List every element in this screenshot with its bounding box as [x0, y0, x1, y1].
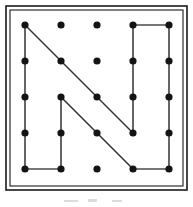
peg-dot — [93, 165, 100, 172]
peg-dot — [93, 57, 100, 64]
peg-dot — [57, 21, 64, 28]
peg-dot — [21, 93, 28, 100]
peg-dot — [165, 57, 172, 64]
caption-smudge — [112, 200, 122, 202]
peg-dot — [129, 165, 136, 172]
caption-smudge — [88, 199, 97, 202]
peg-dot — [57, 165, 64, 172]
peg-dot — [93, 93, 100, 100]
peg-dot — [57, 129, 64, 136]
peg-dot — [57, 93, 64, 100]
caption-smudge-group — [64, 199, 122, 202]
peg-dot — [129, 129, 136, 136]
peg-dot — [93, 21, 100, 28]
caption-smudge — [64, 200, 78, 202]
geoboard-figure — [0, 0, 193, 207]
peg-dot — [57, 57, 64, 64]
peg-dot — [21, 129, 28, 136]
peg-dot — [21, 165, 28, 172]
geoboard-canvas — [0, 0, 193, 207]
peg-dot — [129, 21, 136, 28]
peg-dot — [165, 165, 172, 172]
peg-dot — [129, 93, 136, 100]
peg-dot — [21, 21, 28, 28]
peg-dot — [129, 57, 136, 64]
peg-dot — [165, 129, 172, 136]
peg-dot — [21, 57, 28, 64]
peg-dot — [165, 21, 172, 28]
peg-dot — [93, 129, 100, 136]
peg-dot — [165, 93, 172, 100]
